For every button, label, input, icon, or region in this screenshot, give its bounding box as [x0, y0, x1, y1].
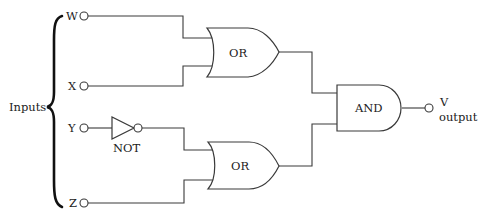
input-z-terminal — [80, 199, 88, 207]
input-w-terminal — [80, 12, 88, 20]
input-w-label: W — [66, 9, 78, 23]
input-y-terminal — [80, 124, 88, 132]
wire-x — [88, 66, 212, 86]
wire-w — [88, 16, 212, 38]
wire-or1-out — [279, 52, 337, 93]
not-gate: NOT — [112, 117, 142, 155]
input-y-label: Y — [67, 121, 76, 135]
inputs-brace — [47, 16, 62, 207]
or-gate-top: OR — [207, 28, 279, 77]
inputs-label: Inputs — [9, 100, 46, 114]
not-gate-label: NOT — [113, 141, 140, 155]
or-gate-bottom-label: OR — [231, 159, 249, 173]
or-gate-top-label: OR — [229, 46, 247, 60]
input-x-label: X — [68, 79, 77, 93]
or-gate-bottom: OR — [208, 142, 279, 189]
input-z-label: Z — [69, 196, 77, 210]
logic-circuit-diagram: Inputs W X Y Z NOT OR OR AND V — [0, 0, 483, 218]
wire-z — [88, 180, 213, 203]
and-gate-label: AND — [354, 101, 383, 115]
wire-not-out — [142, 128, 213, 150]
output-sublabel: output — [439, 110, 478, 124]
output-v-terminal — [425, 104, 433, 112]
input-x-terminal — [80, 82, 88, 90]
and-gate: AND — [337, 85, 401, 131]
not-bubble — [134, 124, 142, 132]
output-v-label: V — [439, 95, 449, 109]
wire-or2-out — [279, 124, 337, 166]
